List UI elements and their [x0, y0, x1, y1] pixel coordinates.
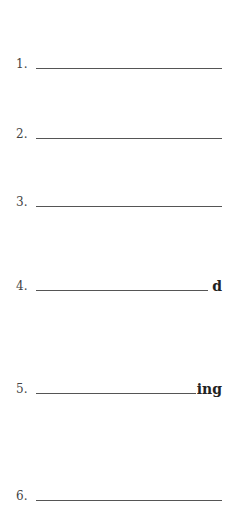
blank-item-6: 6.	[16, 488, 222, 504]
blank-item-1: 1.	[16, 56, 222, 72]
answer-blank[interactable]	[36, 138, 222, 139]
word-suffix: ing	[197, 381, 222, 397]
word-suffix: d	[212, 278, 222, 294]
item-number: 6.	[16, 489, 27, 503]
answer-blank[interactable]	[36, 290, 208, 291]
blank-item-4: 4. d	[16, 278, 222, 294]
answer-blank[interactable]	[36, 68, 222, 69]
item-number: 5.	[16, 382, 27, 396]
item-number: 2.	[16, 127, 27, 141]
answer-blank[interactable]	[36, 393, 196, 394]
answer-blank[interactable]	[36, 500, 222, 501]
item-number: 4.	[16, 279, 27, 293]
blank-item-5: 5. ing	[16, 381, 222, 397]
item-number: 1.	[16, 57, 27, 71]
item-number: 3.	[16, 195, 27, 209]
blank-item-3: 3.	[16, 194, 222, 210]
answer-blank[interactable]	[36, 206, 222, 207]
blank-item-2: 2.	[16, 126, 222, 142]
